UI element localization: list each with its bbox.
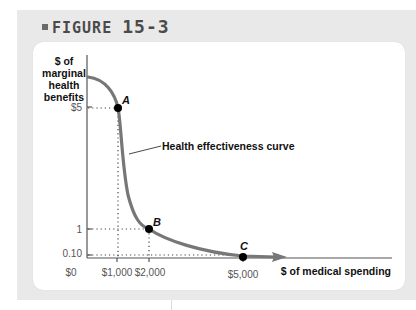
x-axis-label: $ of medical spending [281,265,391,277]
x-tick-labels: $0 $1,000 $2,000 $5,000 [65,267,258,280]
curve-label: Health effectiveness curve [162,140,295,152]
y-label-line-2: marginal [42,67,86,79]
chart: $ of marginal health benefits $5 1 0.10 … [0,0,416,310]
point-a [114,104,122,112]
arrowhead-icon [272,252,287,262]
point-label-b: B [153,216,161,228]
y-label-line-3: health [49,79,80,91]
y-tick-label: 0.10 [63,248,83,259]
y-axis-label: $ of marginal health benefits [42,55,86,103]
curve-label-leader [129,146,161,154]
y-tick-label: $5 [71,102,83,113]
x-tick-label: $0 [65,267,77,278]
reference-lines [88,108,243,257]
point-labels: A B C [121,94,249,252]
point-c [239,253,247,261]
x-tick-label: $2,000 [135,267,166,278]
y-tick-label: 1 [76,224,82,235]
y-label-line-1: $ of [55,55,74,67]
x-tick-label: $1,000 [102,267,133,278]
x-tick-label: $5,000 [228,269,259,280]
point-b [145,225,153,233]
y-tick-labels: $5 1 0.10 [63,102,83,259]
point-label-a: A [121,94,130,106]
health-effectiveness-curve [88,77,276,257]
axes [87,55,392,262]
point-label-c: C [240,240,249,252]
